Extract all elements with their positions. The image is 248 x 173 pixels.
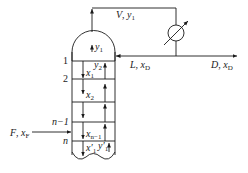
label-x2: x2 xyxy=(85,89,94,102)
label-reflux: L, xD xyxy=(129,59,150,72)
label-y1-prime: y′1 xyxy=(97,140,109,153)
tray-label-n-1: n−1 xyxy=(52,116,69,127)
tray-label-2: 2 xyxy=(63,73,68,84)
label-feed: F, xF xyxy=(9,127,30,140)
label-x1-prime: x′1 xyxy=(85,142,97,155)
distillation-diagram: V, y1 L, xD D, xD F, xF 1 2 n−1 n y1 y2 … xyxy=(0,0,248,173)
tray-label-1: 1 xyxy=(63,55,68,66)
label-y1: y1 xyxy=(94,41,103,54)
column-shell xyxy=(72,31,115,62)
label-vapor: V, y1 xyxy=(116,9,136,22)
tray-label-n: n xyxy=(63,135,68,146)
label-distillate: D, xD xyxy=(210,59,233,72)
